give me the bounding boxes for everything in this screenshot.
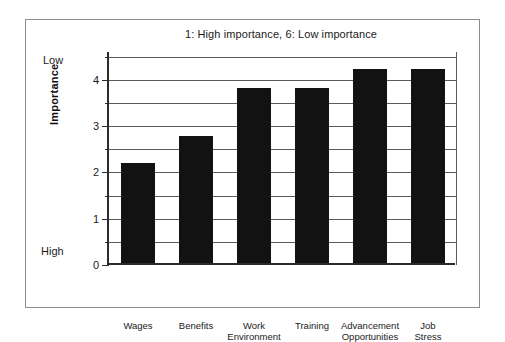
gridline	[109, 219, 457, 220]
gridline	[109, 57, 457, 58]
bar[interactable]	[295, 88, 329, 263]
y-axis-high-annotation: High	[41, 245, 64, 257]
chart-title: 1: High importance, 6: Low importance	[107, 28, 455, 40]
gridline	[109, 103, 457, 104]
gridline	[109, 149, 457, 150]
y-tick-minor	[105, 242, 109, 243]
y-axis-title: Importance	[48, 64, 60, 125]
y-tick-minor	[105, 57, 109, 58]
y-tick-label: 1	[93, 213, 99, 225]
gridline	[109, 196, 457, 197]
gridline	[109, 172, 457, 173]
y-tick-label: 4	[93, 74, 99, 86]
bar[interactable]	[121, 163, 155, 263]
y-tick-minor	[105, 196, 109, 197]
bar[interactable]	[179, 136, 213, 263]
y-tick-major	[102, 219, 109, 220]
y-axis-low-annotation: Low	[43, 54, 63, 66]
y-tick-major	[102, 172, 109, 173]
bar[interactable]	[237, 88, 271, 263]
gridline	[109, 80, 457, 81]
gridline	[109, 126, 457, 127]
x-axis-label: JobStress	[393, 320, 463, 342]
y-tick-major	[102, 265, 109, 266]
y-tick-major	[102, 80, 109, 81]
x-axis-label-line: Job	[393, 320, 463, 331]
bar[interactable]	[353, 69, 387, 263]
y-tick-label: 3	[93, 120, 99, 132]
plot-right-edge	[456, 52, 457, 265]
y-tick-label: 2	[93, 166, 99, 178]
y-tick-label: 0	[93, 259, 99, 271]
y-tick-minor	[105, 149, 109, 150]
bar[interactable]	[411, 69, 445, 263]
gridline	[109, 242, 457, 243]
y-tick-minor	[105, 103, 109, 104]
x-axis-label-line: Stress	[393, 331, 463, 342]
x-axis-label-line: Environment	[219, 331, 289, 342]
y-tick-major	[102, 126, 109, 127]
plot-area: 01234 WagesBenefitsWorkEnvironmentTraini…	[107, 52, 455, 265]
